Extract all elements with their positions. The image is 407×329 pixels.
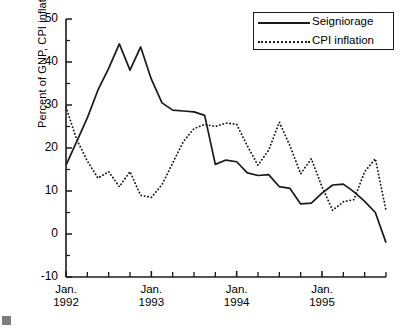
y-axis-ticks	[66, 19, 72, 277]
y-axis-tick-label: 40	[32, 54, 58, 68]
data-series-group	[66, 44, 386, 243]
legend-item-seigniorage: Seigniorage	[258, 13, 392, 32]
x-axis-tick-label: Jan.1995	[293, 283, 351, 309]
legend: Seigniorage CPI inflation	[253, 12, 394, 50]
y-axis-tick-label: 20	[32, 140, 58, 154]
x-axis-tick-label: Jan.1993	[122, 283, 180, 309]
legend-swatch-dotted-line	[258, 41, 310, 43]
x-axis-ticks	[66, 271, 386, 277]
x-axis-tick-label-year: 1994	[208, 296, 266, 309]
x-axis-tick-label-month: Jan.	[208, 283, 266, 296]
x-axis-tick-label: Jan.1994	[208, 283, 266, 309]
y-axis-tick-label: -10	[32, 269, 58, 283]
x-axis-tick-label-month: Jan.	[122, 283, 180, 296]
x-axis-tick-label: Jan.1992	[37, 283, 95, 309]
legend-item-cpi-inflation: CPI inflation	[258, 32, 392, 51]
y-axis-tick-label: 10	[32, 183, 58, 197]
legend-label-seigniorage: Seigniorage	[312, 15, 373, 27]
y-axis-tick-label: 30	[32, 97, 58, 111]
series-line-seigniorage	[66, 44, 386, 243]
legend-label-cpi-inflation: CPI inflation	[312, 34, 374, 46]
x-axis-tick-label-year: 1992	[37, 296, 95, 309]
x-axis-tick-label-year: 1993	[122, 296, 180, 309]
chart-figure: Percent of GNP, CPI inflation -100102030…	[0, 0, 407, 329]
legend-swatch-solid-line	[258, 22, 310, 24]
x-axis-tick-label-year: 1995	[293, 296, 351, 309]
x-axis-tick-label-month: Jan.	[293, 283, 351, 296]
y-axis-tick-label: 50	[32, 11, 58, 25]
page-corner-artifact	[2, 316, 11, 325]
y-axis-tick-label: 0	[32, 226, 58, 240]
series-line-cpi-inflation	[66, 107, 386, 210]
x-axis-tick-label-month: Jan.	[37, 283, 95, 296]
